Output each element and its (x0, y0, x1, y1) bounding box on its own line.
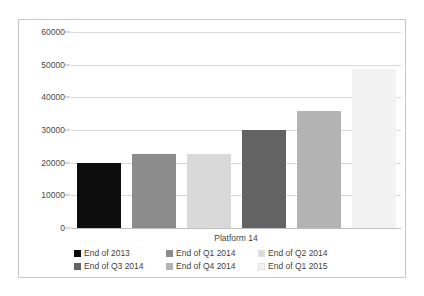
y-axis-tickmark (65, 130, 70, 131)
y-axis-tickmark (65, 64, 70, 65)
legend-swatch-icon (166, 263, 173, 270)
legend-item[interactable]: End of Q2 2014 (258, 248, 350, 259)
y-axis-tickmark (65, 97, 70, 98)
legend-item[interactable]: End of Q3 2014 (74, 261, 166, 272)
y-axis-tick-label: 50000 (41, 60, 65, 70)
legend-item[interactable]: End of Q1 2015 (258, 261, 350, 272)
legend-label: End of 2013 (84, 248, 130, 259)
y-axis-tick-label: 0 (60, 223, 65, 233)
legend-item[interactable]: End of Q1 2014 (166, 248, 258, 259)
bar-2 (132, 154, 176, 228)
y-axis-tick-label: 20000 (41, 158, 65, 168)
legend-label: End of Q2 2014 (268, 248, 328, 259)
legend-label: End of Q4 2014 (176, 261, 236, 272)
bar-3 (187, 154, 231, 228)
plot-area: 0100002000030000400005000060000 (71, 32, 401, 228)
bar-6 (352, 69, 396, 228)
y-axis-tickmark (65, 195, 70, 196)
bar-1 (77, 163, 121, 228)
legend-row: End of 2013End of Q1 2014End of Q2 2014 (74, 248, 350, 259)
legend-swatch-icon (74, 250, 81, 257)
y-axis-tick-label: 30000 (41, 125, 65, 135)
y-axis-tick-label: 10000 (41, 190, 65, 200)
bar-4 (242, 130, 286, 228)
legend-swatch-icon (74, 263, 81, 270)
y-axis-tickmark (65, 228, 70, 229)
gridline (71, 228, 401, 229)
bar-group (71, 32, 401, 228)
legend-label: End of Q3 2014 (84, 261, 144, 272)
legend-row: End of Q3 2014End of Q4 2014End of Q1 20… (74, 261, 350, 272)
chart-legend: End of 2013End of Q1 2014End of Q2 2014E… (19, 248, 405, 272)
legend-label: End of Q1 2014 (176, 248, 236, 259)
y-axis-tickmark (65, 162, 70, 163)
bar-5 (297, 111, 341, 228)
legend-item[interactable]: End of Q4 2014 (166, 261, 258, 272)
legend-swatch-icon (258, 263, 265, 270)
y-axis-tick-label: 60000 (41, 27, 65, 37)
legend-item[interactable]: End of 2013 (74, 248, 166, 259)
y-axis-tickmark (65, 32, 70, 33)
x-axis-label: Platform 14 (71, 233, 401, 243)
legend-swatch-icon (258, 250, 265, 257)
y-axis-tick-label: 40000 (41, 92, 65, 102)
legend-swatch-icon (166, 250, 173, 257)
chart-container: 0100002000030000400005000060000 Platform… (18, 19, 406, 278)
legend-label: End of Q1 2015 (268, 261, 328, 272)
